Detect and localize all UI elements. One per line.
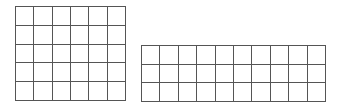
grid-cell [34,7,52,26]
grid-cell [234,46,252,65]
grid-cell [252,46,270,65]
grid-cell [53,82,71,101]
grid-right-10x3 [141,45,326,102]
grid-cell [308,46,326,65]
grid-cell [234,65,252,84]
grid-cell [108,26,126,45]
grid-cell [216,65,234,84]
grid-cell [308,65,326,84]
grid-cell [34,26,52,45]
grid-cell [234,83,252,102]
grid-cell [53,7,71,26]
grid-cell [308,83,326,102]
grid-cell [142,65,160,84]
grid-cell [179,46,197,65]
grid-cell [16,82,34,101]
grid-cell [160,65,178,84]
grid-cell [53,45,71,64]
grid-cell [34,45,52,64]
grid-cell [71,45,89,64]
grid-cell [89,63,107,82]
grid-cell [16,63,34,82]
grid-cell [216,46,234,65]
grid-cell [34,63,52,82]
grid-cell [216,83,234,102]
grid-cell [179,65,197,84]
grid-cell [142,83,160,102]
grid-cell [108,7,126,26]
grid-cell [71,26,89,45]
grid-cell [271,65,289,84]
grid-cell [71,7,89,26]
grid-cell [197,83,215,102]
grid-cell [252,65,270,84]
grid-cell [160,46,178,65]
grid-cell [252,83,270,102]
grid-cell [160,83,178,102]
grid-cell [142,46,160,65]
grid-cell [197,65,215,84]
grid-left-6x5 [15,6,126,101]
grid-cell [289,83,307,102]
grid-cell [89,82,107,101]
grid-cell [289,46,307,65]
grid-cell [197,46,215,65]
grid-cell [89,7,107,26]
diagram-canvas [0,0,340,109]
grid-cell [179,83,197,102]
grid-cell [89,26,107,45]
grid-cell [108,45,126,64]
grid-cell [271,46,289,65]
grid-cell [271,83,289,102]
grid-cell [71,82,89,101]
grid-cell [89,45,107,64]
grid-cell [71,63,89,82]
grid-cell [16,45,34,64]
grid-cell [108,63,126,82]
grid-cell [53,63,71,82]
grid-cell [34,82,52,101]
grid-cell [289,65,307,84]
grid-cell [53,26,71,45]
grid-cell [16,7,34,26]
grid-cell [108,82,126,101]
grid-cell [16,26,34,45]
